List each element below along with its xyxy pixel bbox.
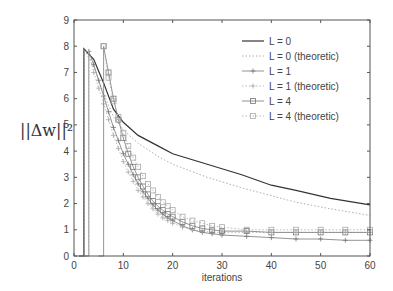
convergence-chart: 01020304050600123456789 iterations ||Δw|… <box>0 0 393 291</box>
x-tick-label: 30 <box>216 260 228 271</box>
y-tick-label: 0 <box>63 251 69 262</box>
legend-item: L = 4 <box>242 96 292 107</box>
x-tick-label: 40 <box>266 260 278 271</box>
x-tick-label: 0 <box>71 260 77 271</box>
y-tick-label: 8 <box>63 41 69 52</box>
y-axis-label: ||Δw||² <box>20 121 73 140</box>
x-axis-label: iterations <box>202 272 243 283</box>
y-tick-label: 2 <box>63 198 69 209</box>
series-l-4 <box>99 44 373 256</box>
legend-item: L = 0 <box>242 36 292 47</box>
legend-item: L = 4 (theoretic) <box>242 111 339 122</box>
series-l-4-theoretic- <box>99 44 373 256</box>
x-tick-label: 50 <box>315 260 327 271</box>
legend-label: L = 1 <box>269 66 292 77</box>
legend-label: L = 4 (theoretic) <box>269 111 339 122</box>
legend-item: L = 1 (theoretic) <box>242 81 339 92</box>
legend-item: L = 0 (theoretic) <box>242 51 339 62</box>
y-tick-label: 6 <box>63 93 69 104</box>
x-tick-label: 10 <box>118 260 130 271</box>
x-tick-label: 60 <box>364 260 376 271</box>
y-tick-label: 3 <box>63 172 69 183</box>
x-tick-label: 20 <box>167 260 179 271</box>
y-tick-label: 1 <box>63 224 69 235</box>
legend: L = 0L = 0 (theoretic)L = 1L = 1 (theore… <box>242 36 339 122</box>
legend-label: L = 0 <box>269 36 292 47</box>
legend-label: L = 0 (theoretic) <box>269 51 339 62</box>
legend-label: L = 1 (theoretic) <box>269 81 339 92</box>
plot-area <box>79 44 373 256</box>
legend-item: L = 1 <box>242 66 292 77</box>
y-tick-label: 9 <box>63 15 69 26</box>
y-tick-label: 7 <box>63 67 69 78</box>
legend-label: L = 4 <box>269 96 292 107</box>
y-tick-label: 4 <box>63 146 69 157</box>
